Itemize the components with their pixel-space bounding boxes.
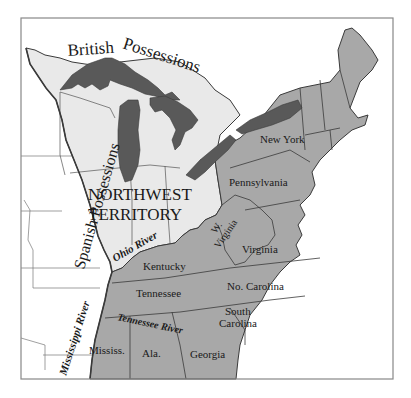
state-label-south-carolina-1: South — [225, 305, 251, 317]
state-label-no-carolina: No. Carolina — [227, 280, 284, 292]
state-label-kentucky: Kentucky — [143, 260, 186, 272]
state-label-south-carolina-2: Carolina — [219, 317, 257, 329]
british-label-1: British — [67, 38, 115, 60]
state-label-pennsylvania: Pennsylvania — [229, 176, 288, 188]
state-label-virginia: Virginia — [242, 243, 278, 255]
nwt-label-2: TERRITORY — [88, 205, 182, 224]
state-label-tennessee: Tennessee — [136, 287, 181, 299]
state-label-new-york: New York — [260, 133, 305, 145]
state-label-mississ: Mississ. — [89, 344, 125, 356]
historical-map: British Possessions Spanish Possessions … — [0, 0, 411, 398]
state-label-georgia: Georgia — [190, 348, 225, 360]
nwt-label-1: NORTHWEST — [88, 185, 192, 204]
state-label-ala: Ala. — [142, 347, 161, 359]
